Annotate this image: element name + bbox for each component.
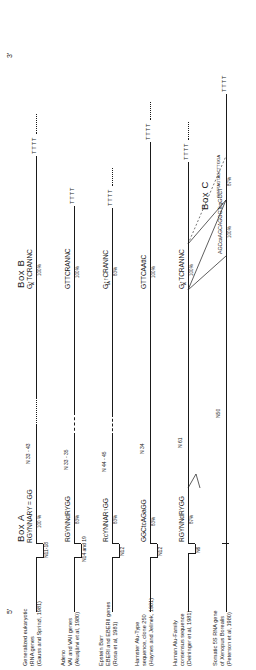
promoter-diagram: 5' 3' Box A Box B Box C Generalized euka… [0,0,256,670]
connector-dashed [188,156,226,244]
row5-fan-b [196,474,200,488]
connector-c [188,200,226,290]
connector-a [188,256,226,290]
row5-fan-a [188,474,196,488]
figure-canvas: 5' 3' Box A Box B Box C Generalized euka… [0,0,256,670]
box-c-connector-lines [0,0,256,670]
connector-b [188,200,226,244]
